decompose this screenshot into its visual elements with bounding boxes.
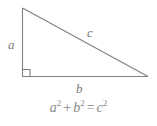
pythagorean-equation: a2+b2=c2: [0, 101, 157, 115]
equation-operator-equals: =: [85, 100, 97, 115]
right-angle-marker-icon: [23, 70, 31, 77]
triangle-hypotenuse-c-line: [23, 8, 149, 77]
label-side-b: b: [76, 82, 83, 95]
equation-operator-plus: +: [61, 100, 73, 115]
equation-term-a: a: [50, 100, 57, 115]
equation-exponent-b: 2: [80, 98, 85, 108]
label-side-c: c: [87, 26, 93, 39]
pythagorean-theorem-figure: a c b a2+b2=c2: [0, 0, 157, 126]
equation-exponent-c: 2: [103, 98, 108, 108]
label-side-a: a: [8, 38, 15, 51]
